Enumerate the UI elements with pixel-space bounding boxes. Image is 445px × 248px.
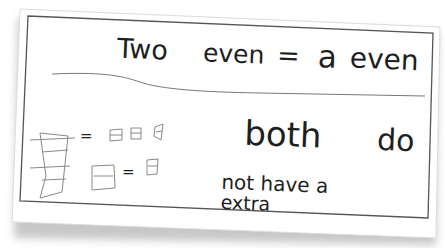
explanation-word-do: do: [377, 122, 416, 158]
heading-word-a: a: [317, 38, 337, 75]
explanation-line-3: extra: [220, 191, 270, 215]
explanation-word-both: both: [244, 113, 323, 156]
heading-word-two: Two: [116, 33, 169, 66]
heading-word-even-1: even: [202, 38, 265, 70]
sketch-equals-top: =: [80, 127, 93, 145]
sketch-equals-bottom: =: [122, 163, 135, 181]
heading-word-even-2: even: [349, 41, 419, 77]
handwritten-card-scan: Two even = a even = = both do not have a…: [0, 0, 445, 248]
heading-equals: =: [276, 39, 300, 71]
